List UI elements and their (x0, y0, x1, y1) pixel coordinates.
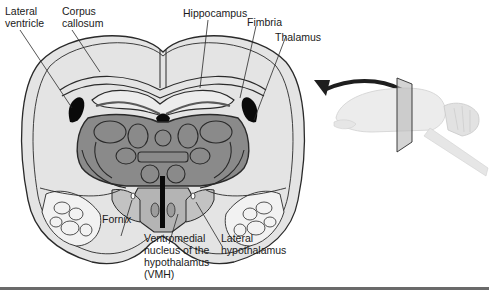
label-corpus-callosum: Corpus callosum (62, 5, 103, 29)
label-lateral-ventricle: Lateral ventricle (5, 5, 44, 29)
label-vmh: Ventromedial nucleus of the hypothalamus… (144, 232, 209, 280)
arrow-head (314, 80, 330, 96)
fornix-right (191, 193, 195, 199)
fornix-left (131, 193, 135, 199)
label-fimbria: Fimbria (247, 16, 282, 28)
thalamus (77, 115, 249, 186)
inset-brain (334, 78, 488, 176)
label-lateral-hypothalamus: Lateral hypothalamus (221, 232, 286, 256)
label-hippocampus: Hippocampus (183, 7, 247, 19)
label-fornix: Fornix (102, 213, 131, 225)
third-ventricle (160, 176, 165, 228)
bottom-rule (0, 287, 489, 290)
label-thalamus: Thalamus (275, 31, 321, 43)
coronal-plane (397, 78, 412, 152)
